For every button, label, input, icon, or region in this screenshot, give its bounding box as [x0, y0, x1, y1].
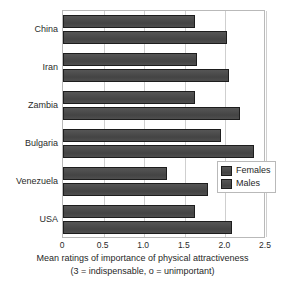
y-axis-label-zambia: Zambia	[0, 100, 58, 110]
legend-label: Males	[236, 178, 260, 189]
bar-group	[63, 89, 264, 127]
bar-venezuela-males	[63, 183, 208, 196]
legend-label: Females	[236, 165, 271, 176]
bar-group	[63, 51, 264, 89]
y-axis-label-bulgaria: Bulgaria	[0, 138, 58, 148]
x-tick-label: 2.0	[218, 240, 230, 250]
bar-bulgaria-females	[63, 129, 221, 142]
bar-iran-females	[63, 53, 197, 66]
x-tick-label: 0	[60, 240, 65, 250]
bar-usa-males	[63, 221, 232, 234]
bar-chart: ChinaIranZambiaBulgariaVenezuelaUSA 00.5…	[0, 0, 285, 285]
bar-venezuela-females	[63, 167, 167, 180]
x-axis-subtitle: (3 = indispensable, o = unimportant)	[0, 265, 285, 277]
x-axis-title: Mean ratings of importance of physical a…	[0, 252, 285, 264]
y-axis-label-usa: USA	[0, 214, 58, 224]
x-tick-label: 1.5	[178, 240, 190, 250]
legend-swatch-icon	[221, 166, 232, 176]
y-axis-label-venezuela: Venezuela	[0, 176, 58, 186]
plot-area	[62, 10, 265, 238]
bars-layer	[63, 11, 264, 237]
y-axis-label-iran: Iran	[0, 62, 58, 72]
y-axis-category-labels: ChinaIranZambiaBulgariaVenezuelaUSA	[0, 10, 58, 238]
legend-item-males: Males	[221, 177, 271, 190]
bar-group	[63, 203, 264, 241]
bar-zambia-females	[63, 91, 195, 104]
bar-china-females	[63, 15, 195, 28]
x-tick-label: 0.5	[97, 240, 109, 250]
legend-swatch-icon	[221, 179, 232, 189]
x-tick-label: 2.5	[259, 240, 271, 250]
bar-group	[63, 127, 264, 165]
bar-bulgaria-males	[63, 145, 254, 158]
bar-iran-males	[63, 69, 229, 82]
y-axis-label-china: China	[0, 24, 58, 34]
x-tick-label: 1.0	[137, 240, 149, 250]
legend-item-females: Females	[221, 164, 271, 177]
gridline	[266, 11, 267, 237]
legend: FemalesMales	[217, 161, 276, 193]
bar-zambia-males	[63, 107, 240, 120]
bar-china-males	[63, 31, 227, 44]
bar-group	[63, 13, 264, 51]
bar-usa-females	[63, 205, 195, 218]
